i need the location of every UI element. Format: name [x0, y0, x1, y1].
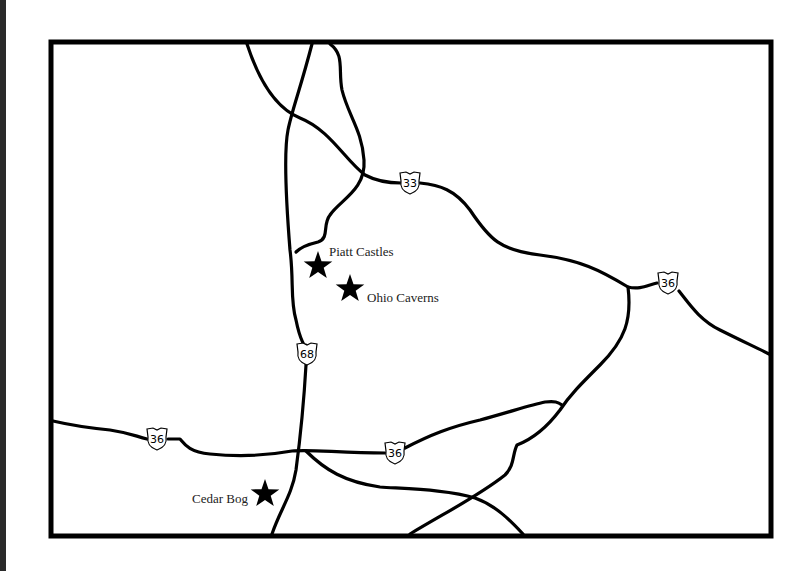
route-map: 33 36 68 36 36 Piatt Castles Ohio Cavern…: [0, 0, 786, 571]
poi-label: Piatt Castles: [329, 244, 394, 259]
route-36-label-center: 36: [388, 447, 402, 460]
poi-label: Cedar Bog: [192, 491, 248, 506]
route-36-label-east: 36: [661, 277, 675, 290]
route-36-label-west: 36: [150, 433, 164, 446]
route-68-label: 68: [300, 348, 314, 361]
route-33-label: 33: [403, 177, 417, 190]
poi-label: Ohio Caverns: [367, 290, 439, 305]
